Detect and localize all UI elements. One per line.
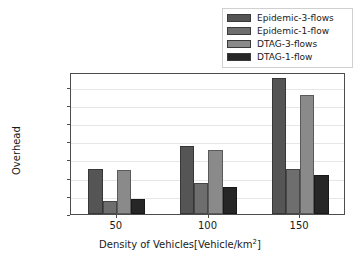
legend-swatch-epidemic-1-flow [227, 27, 251, 35]
legend-label-dtag-3-flows: DTAG-3-flows [257, 39, 317, 49]
legend-item-0: Epidemic-3-flows [227, 12, 348, 24]
bar-group-100 [180, 74, 237, 214]
bar-chart-figure: Epidemic-3-flows Epidemic-1-flow DTAG-3-… [0, 0, 360, 262]
legend-item-1: Epidemic-1-flow [227, 25, 348, 37]
plot-inner [71, 74, 344, 214]
legend-label-dtag-1-flow: DTAG-1-flow [257, 52, 312, 62]
bar-dtag-3-flows-50 [117, 170, 131, 214]
bar-epidemic-3-flows-100 [180, 146, 194, 214]
legend-item-2: DTAG-3-flows [227, 38, 348, 50]
x-tick-mark [116, 215, 117, 218]
bar-dtag-1-flow-100 [223, 187, 237, 214]
legend-swatch-dtag-1-flow [227, 53, 251, 61]
x-axis-label-text: Density of Vehicles[Vehicle/km2] [99, 239, 261, 250]
legend-label-epidemic-3-flows: Epidemic-3-flows [257, 13, 334, 23]
bar-dtag-3-flows-100 [208, 150, 222, 214]
legend-label-epidemic-1-flow: Epidemic-1-flow [257, 26, 329, 36]
bar-group-50 [88, 74, 145, 214]
legend-swatch-dtag-3-flows [227, 40, 251, 48]
x-tick-mark [299, 215, 300, 218]
bar-epidemic-1-flow-150 [286, 169, 300, 214]
bar-epidemic-1-flow-100 [194, 183, 208, 214]
bar-group-150 [272, 74, 329, 214]
bar-dtag-1-flow-150 [314, 175, 328, 214]
plot-area [70, 73, 345, 215]
bar-epidemic-3-flows-50 [88, 169, 102, 215]
legend-item-3: DTAG-1-flow [227, 51, 348, 63]
bar-dtag-1-flow-50 [131, 199, 145, 214]
y-axis-label: Overhead [11, 126, 22, 175]
x-tick-label-50: 50 [109, 220, 122, 231]
x-tick-mark [208, 215, 209, 218]
x-tick-label-150: 150 [290, 220, 309, 231]
x-axis-label: Density of Vehicles[Vehicle/km2] [0, 238, 360, 250]
bar-epidemic-3-flows-150 [272, 78, 286, 214]
legend-swatch-epidemic-3-flows [227, 14, 251, 22]
chart-legend: Epidemic-3-flows Epidemic-1-flow DTAG-3-… [222, 8, 353, 68]
bar-epidemic-1-flow-50 [103, 201, 117, 214]
y-tick-mark [67, 215, 70, 216]
bar-dtag-3-flows-150 [300, 95, 314, 214]
x-tick-label-100: 100 [198, 220, 217, 231]
